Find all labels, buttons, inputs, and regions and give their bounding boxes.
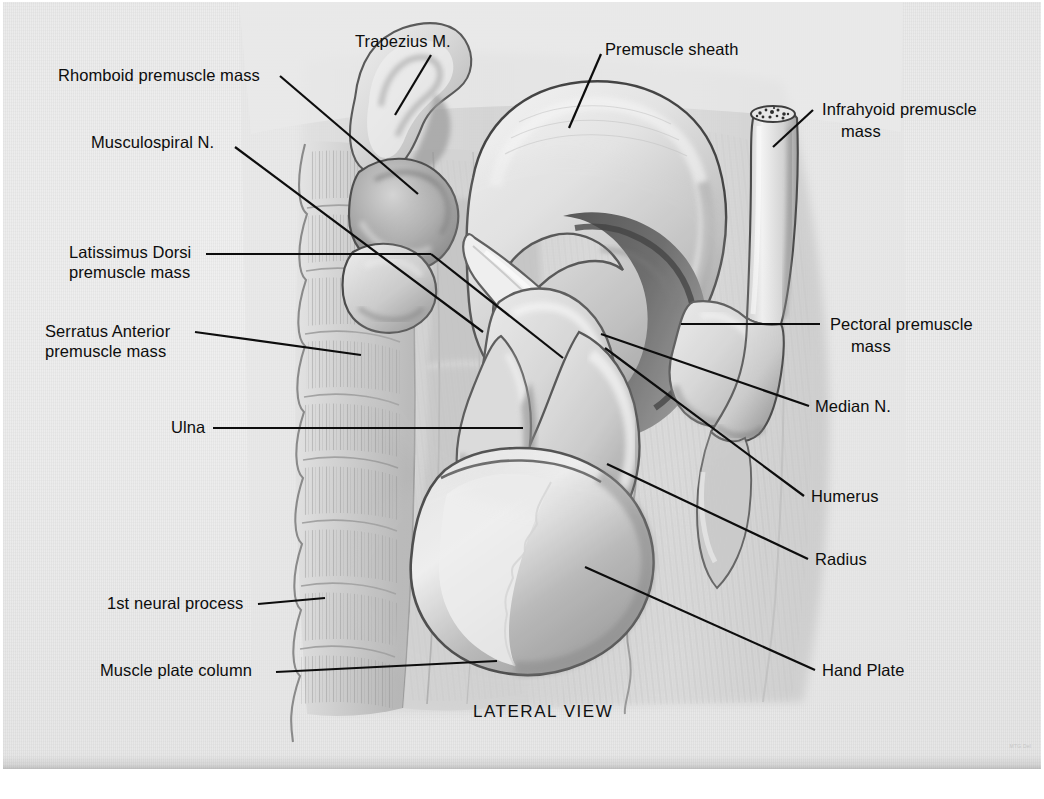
label-latissimus-dorsi-line2: premuscle mass: [69, 263, 190, 282]
label-musculospiral-nerve: Musculospiral N.: [91, 133, 214, 152]
label-rhomboid-premuscle-mass: Rhomboid premuscle mass: [58, 66, 260, 85]
label-serratus-anterior-line1: Serratus Anterior: [45, 322, 170, 341]
label-latissimus-dorsi-line1: Latissimus Dorsi: [69, 243, 191, 262]
label-premuscle-sheath: Premuscle sheath: [605, 40, 738, 59]
label-muscle-plate-column: Muscle plate column: [100, 661, 252, 680]
label-infrahyoid-premuscle-mass-line2: mass: [841, 122, 881, 141]
figure-caption-fragment: [62, 781, 65, 793]
label-pectoral-premuscle-mass-line2: mass: [851, 337, 891, 356]
view-caption: LATERAL VIEW: [473, 702, 613, 722]
label-1st-neural-process: 1st neural process: [107, 594, 243, 613]
label-humerus: Humerus: [811, 487, 879, 506]
label-serratus-anterior-line2: premuscle mass: [45, 342, 166, 361]
illustration-plate: Rhomboid premuscle mass Musculospiral N.…: [3, 2, 1041, 769]
label-trapezius-muscle: Trapezius M.: [355, 32, 451, 51]
label-hand-plate: Hand Plate: [822, 661, 904, 680]
label-infrahyoid-premuscle-mass-line1: Infrahyoid premuscle: [822, 100, 977, 119]
label-ulna: Ulna: [171, 418, 205, 437]
anatomical-figure: Rhomboid premuscle mass Musculospiral N.…: [0, 0, 1044, 799]
label-pectoral-premuscle-mass-line1: Pectoral premuscle: [830, 315, 973, 334]
artist-signature: MTG Del: [1010, 743, 1031, 749]
label-median-nerve: Median N.: [815, 397, 891, 416]
label-radius: Radius: [815, 550, 867, 569]
